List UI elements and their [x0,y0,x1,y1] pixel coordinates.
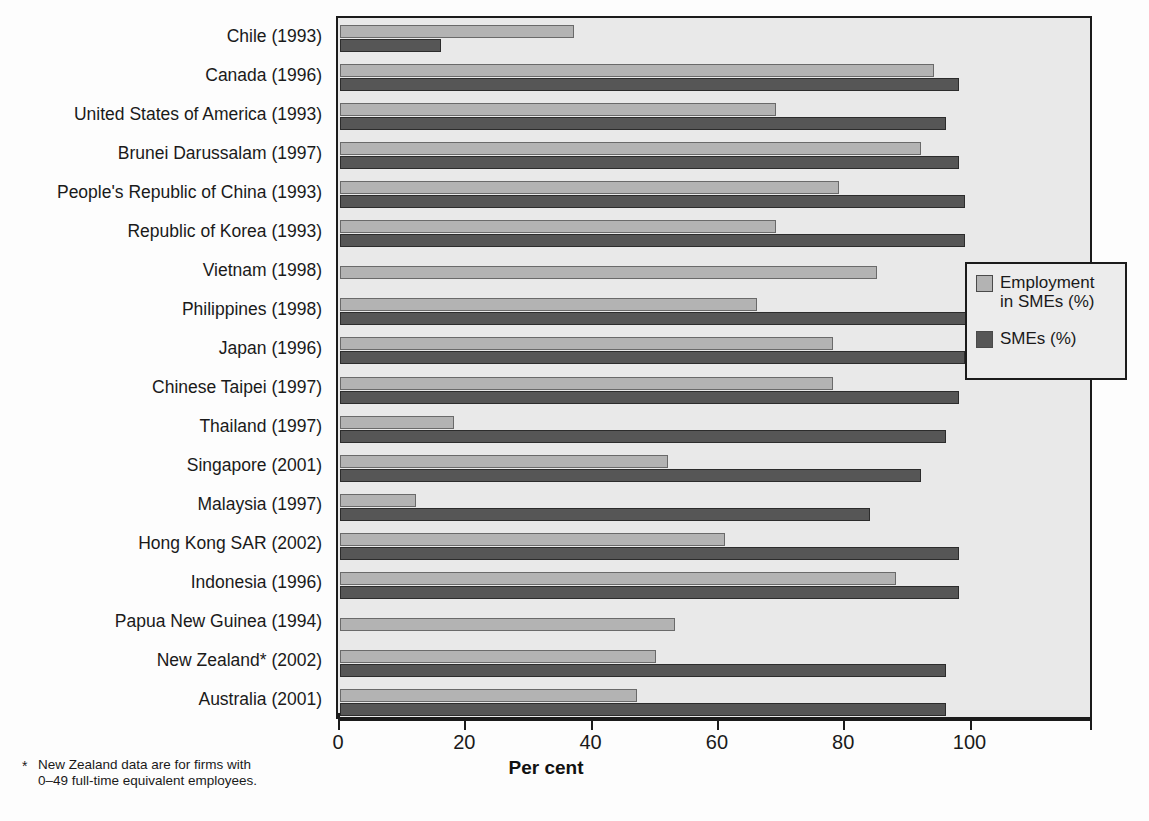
bar-employment [340,572,896,585]
bar-employment [340,337,833,350]
x-axis-tick-label: 80 [832,731,854,754]
chart-footnote: * New Zealand data are for firms with 0–… [22,757,322,789]
category-label: Chile (1993) [227,27,322,45]
x-axis-tick [970,719,972,730]
category-label: Vietnam (1998) [203,261,322,279]
bar-smes [340,430,946,443]
bar-employment [340,103,776,116]
bar-smes [340,312,972,325]
legend-item-smes: SMEs (%) [976,329,1117,348]
legend-item-employment: Employment in SMEs (%) [976,273,1117,311]
legend-label-employment-line2: in SMEs (%) [1000,292,1094,311]
bar-employment [340,25,574,38]
footnote-marker: * [22,758,27,774]
bar-employment [340,618,675,631]
bar-employment [340,689,637,702]
bar-smes [340,234,965,247]
x-axis-line [338,719,1092,721]
category-label: Brunei Darussalam (1997) [118,144,322,162]
category-label: Singapore (2001) [187,456,322,474]
category-label: Hong Kong SAR (2002) [138,534,322,552]
bar-employment [340,416,454,429]
category-label: Japan (1996) [219,339,322,357]
bar-employment [340,298,757,311]
bar-employment [340,650,656,663]
bar-smes [340,156,959,169]
bar-employment [340,220,776,233]
bar-employment [340,533,725,546]
bar-smes [340,703,946,716]
category-label: Chinese Taipei (1997) [152,378,322,396]
category-label: Philippines (1998) [182,300,322,318]
footnote-line2: 0–49 full-time equivalent employees. [38,773,257,788]
bar-employment [340,494,416,507]
legend-swatch-employment-icon [976,275,993,292]
x-axis-tick [591,719,593,730]
category-axis-labels: Chile (1993)Canada (1996)United States o… [0,0,330,821]
bar-employment [340,181,839,194]
bar-employment [340,266,877,279]
bar-smes [340,351,965,364]
bar-smes [340,195,965,208]
bar-employment [340,377,833,390]
bar-employment [340,64,934,77]
x-axis-tick-label: 60 [706,731,728,754]
category-label: Indonesia (1996) [191,573,322,591]
x-axis-tick-label: 100 [953,731,986,754]
bar-employment [340,455,668,468]
bar-smes [340,39,441,52]
bar-smes [340,469,921,482]
legend-label-smes: SMEs (%) [1000,329,1077,348]
footnote-line1: New Zealand data are for firms with [38,757,251,772]
category-label: New Zealand* (2002) [157,651,322,669]
category-label: Australia (2001) [198,690,322,708]
x-axis-tick-label: 20 [453,731,475,754]
x-axis-tick [843,719,845,730]
category-label: People's Republic of China (1993) [57,183,322,201]
x-axis-origin-cap [338,713,340,730]
category-label: Papua New Guinea (1994) [115,612,322,630]
x-axis-tick [464,719,466,730]
legend-swatch-smes-icon [976,331,993,348]
x-axis-tick [717,719,719,730]
category-label: Malaysia (1997) [198,495,323,513]
x-axis-end-cap [1090,713,1092,730]
category-label: Canada (1996) [205,66,322,84]
chart-figure: Chile (1993)Canada (1996)United States o… [0,0,1149,821]
bar-smes [340,391,959,404]
bar-employment [340,142,921,155]
legend-label-employment: Employment in SMEs (%) [1000,273,1094,311]
bar-smes [340,547,959,560]
bar-smes [340,586,959,599]
category-label: Republic of Korea (1993) [127,222,322,240]
x-axis-tick-label: 0 [332,731,343,754]
category-label: Thailand (1997) [199,417,322,435]
bar-smes [340,117,946,130]
bar-smes [340,664,946,677]
x-axis-tick-label: 40 [579,731,601,754]
category-label: United States of America (1993) [74,105,322,123]
footnote-text: New Zealand data are for firms with 0–49… [22,757,322,789]
bar-smes [340,508,870,521]
legend-label-employment-line1: Employment [1000,273,1094,292]
chart-legend: Employment in SMEs (%) SMEs (%) [965,262,1127,380]
bar-smes [340,78,959,91]
